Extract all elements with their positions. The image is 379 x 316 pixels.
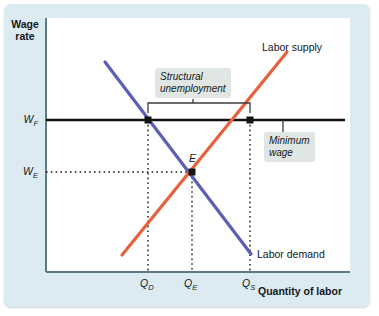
minimum-wage-callout: Minimum wage [264,132,315,162]
y-tick-w-f-base: W [23,113,33,125]
y-tick-w-e-base: W [23,165,33,177]
x-tick-q-s: QS [242,277,255,292]
labor-supply-label: Labor supply [262,41,322,53]
x-tick-q-d-sub: D [148,283,153,292]
equilibrium-point-label: E [189,152,196,164]
structural-unemployment-callout: Structural unemployment [155,68,231,98]
minimum-wage-line-2: wage [269,147,310,159]
x-tick-q-e-sub: E [192,283,197,292]
q-d-point-marker [145,117,152,124]
minimum-wage-line-1: Minimum [269,135,310,147]
y-tick-w-e: WE [10,165,38,180]
y-tick-w-f: WF [10,113,38,128]
structural-unemployment-line-2: unemployment [160,83,226,95]
x-tick-q-d-base: Q [140,277,148,289]
y-axis-label: Wage rate [6,18,44,42]
equilibrium-point-marker [189,169,196,176]
figure-root: Wage rate Quantity of labor WF WE QD QE … [0,0,379,316]
x-tick-q-e-base: Q [184,277,192,289]
labor-demand-label: Labor demand [257,248,325,260]
structural-unemployment-bracket [148,99,250,113]
x-tick-q-e: QE [184,277,197,292]
structural-unemployment-line-1: Structural [160,71,226,83]
y-tick-w-e-sub: E [33,171,38,180]
x-axis-label: Quantity of labor [258,285,342,297]
x-tick-q-s-base: Q [242,277,250,289]
q-s-point-marker [247,117,254,124]
x-tick-q-s-sub: S [250,283,255,292]
x-tick-q-d: QD [140,277,154,292]
y-tick-w-f-sub: F [33,119,38,128]
